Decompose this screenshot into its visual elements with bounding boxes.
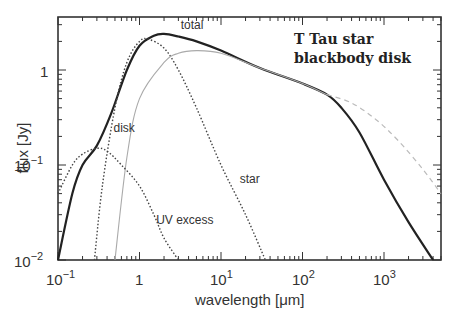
label-total: total	[181, 18, 204, 32]
sed-chart: 10−1 1 101 102 103 10−2 10−1 1 wavelengt…	[0, 0, 453, 319]
curves	[58, 34, 441, 260]
label-disk: disk	[114, 121, 136, 135]
curve-total	[58, 34, 433, 260]
x-tick-10: 101	[210, 268, 233, 288]
x-tick-0.1: 10−1	[46, 268, 75, 288]
x-tick-100: 102	[292, 268, 315, 288]
x-tick-1: 1	[135, 271, 143, 288]
curve-labels: totaldiskstarUV excess	[114, 18, 260, 227]
y-tick-1: 1	[40, 63, 48, 80]
x-tick-1000: 103	[373, 268, 396, 288]
y-axis-title: flux [Jy]	[14, 123, 31, 174]
curve-star	[115, 51, 327, 260]
x-tick-labels: 10−1 1 101 102 103	[46, 268, 396, 288]
x-axis-title: wavelength [μm]	[194, 291, 305, 308]
label-uv-excess: UV excess	[156, 213, 213, 227]
label-star: star	[240, 172, 260, 186]
annotation-line-2: blackbody disk	[294, 50, 411, 66]
y-tick-0.01: 10−2	[14, 250, 43, 270]
curve-uv-excess	[58, 148, 178, 260]
annotation-line-1: T Tau star	[294, 31, 374, 47]
